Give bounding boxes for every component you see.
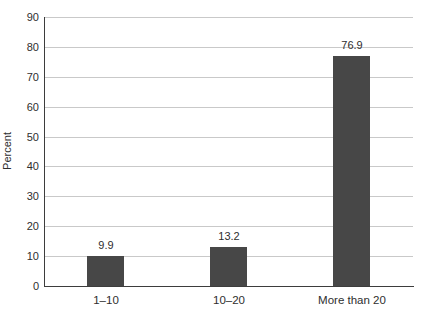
y-tick-label-50: 50 [0, 131, 39, 143]
x-axis-line [44, 286, 414, 287]
bar-value-label-3: 76.9 [322, 39, 382, 52]
bar-value-label-2: 13.2 [199, 230, 259, 243]
y-tick-label-80: 80 [0, 41, 39, 53]
y-tick-label-30: 30 [0, 190, 39, 202]
category-label-1: 1–10 [46, 294, 166, 307]
bar-value-label-1: 9.9 [76, 239, 136, 252]
y-axis-line [44, 17, 45, 287]
bar-2 [210, 247, 247, 287]
bar-3 [333, 56, 370, 286]
category-label-3: More than 20 [292, 294, 412, 307]
y-tick-label-20: 20 [0, 220, 39, 232]
bar-1 [87, 256, 124, 286]
y-tick-label-90: 90 [0, 11, 39, 23]
y-tick-label-0: 0 [0, 280, 39, 292]
y-tick-label-60: 60 [0, 101, 39, 113]
gridline-y-90 [44, 17, 413, 18]
y-tick-label-70: 70 [0, 71, 39, 83]
y-tick-label-40: 40 [0, 160, 39, 172]
bar-chart-figure: Percent 0102030405060708090 1–1010–20Mor… [0, 0, 426, 318]
category-label-2: 10–20 [169, 294, 289, 307]
y-tick-label-10: 10 [0, 250, 39, 262]
